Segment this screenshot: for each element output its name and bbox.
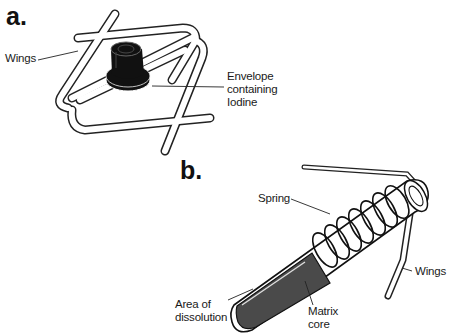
label-area-line1: Area of xyxy=(175,298,227,311)
label-envelope: Envelope containing Iodine xyxy=(227,70,277,109)
label-area-of-dissolution: Area of dissolution xyxy=(175,298,227,324)
label-matrix-line1: Matrix xyxy=(308,305,338,318)
diagram-canvas xyxy=(0,0,452,334)
label-envelope-line2: containing xyxy=(227,83,277,96)
label-wings-b: Wings xyxy=(415,265,446,278)
label-wings-a: Wings xyxy=(5,52,36,65)
label-matrix-core: Matrix core xyxy=(308,305,338,331)
panel-label-b: b. xyxy=(180,158,202,183)
label-spring: Spring xyxy=(258,192,290,205)
iodine-envelope xyxy=(106,42,150,91)
panel-label-a: a. xyxy=(6,4,27,29)
label-envelope-line1: Envelope xyxy=(227,70,277,83)
label-matrix-line2: core xyxy=(308,318,338,331)
label-envelope-line3: Iodine xyxy=(227,96,277,109)
label-area-line2: dissolution xyxy=(175,311,227,324)
